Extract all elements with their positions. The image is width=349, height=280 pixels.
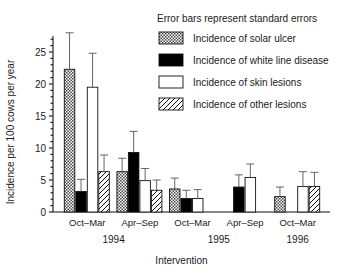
bar-rect-stippled [117, 172, 128, 212]
bar-rect-stippled [64, 69, 75, 212]
bar-rect-hatched [309, 186, 320, 212]
error-bar [194, 190, 202, 199]
bar [170, 178, 181, 212]
bar-rect-white [87, 87, 98, 212]
bar [193, 190, 204, 212]
error-bar [77, 179, 85, 191]
error-bar [100, 155, 108, 172]
y-tick-label: 20 [35, 79, 47, 90]
bar [309, 172, 320, 212]
bar [140, 168, 151, 212]
x-group-label: Oct–Mar [69, 217, 105, 228]
bar [234, 175, 245, 212]
bar-rect-hatched [99, 172, 110, 212]
x-group-label: Apr–Sep [121, 217, 158, 228]
error-bar [235, 175, 243, 187]
bar-rect-white [193, 199, 204, 212]
bar-rect-solid-black [181, 199, 192, 212]
x-year-label: 1994 [102, 234, 125, 245]
error-bar [182, 190, 190, 198]
bar-rect-white [298, 186, 309, 212]
legend-swatch-solid-black [159, 54, 183, 66]
x-axis-title: Intervention [155, 255, 207, 266]
bar-rect-solid-black [234, 187, 245, 212]
bar-rect-white [245, 177, 256, 212]
error-bar [171, 178, 179, 189]
bar [245, 164, 256, 212]
incidence-bar-chart: 0510152025Incidence per 100 cows per yea… [0, 0, 349, 280]
legend-swatch-stippled [159, 32, 183, 44]
error-bar [246, 164, 254, 177]
bar [298, 172, 309, 212]
error-bar [141, 168, 149, 180]
legend-title: Error bars represent standard errors [157, 13, 317, 24]
bar-rect-hatched [151, 190, 162, 212]
y-tick-label: 0 [40, 207, 46, 218]
bar [275, 187, 286, 212]
legend-label: Incidence of white line disease [193, 55, 329, 66]
bar [151, 180, 162, 212]
bar-rect-stippled [275, 197, 286, 212]
error-bar [130, 131, 138, 152]
bar [87, 53, 98, 212]
bar [128, 131, 139, 212]
error-bar [276, 187, 284, 197]
bar [117, 158, 128, 212]
bar [64, 33, 75, 212]
bar [99, 155, 110, 212]
legend-label: Incidence of solar ulcer [193, 33, 297, 44]
legend-label: Incidence of other lesions [193, 99, 306, 110]
legend-label: Incidence of skin lesions [193, 77, 301, 88]
y-tick-label: 5 [40, 175, 46, 186]
bar-rect-solid-black [76, 192, 87, 212]
x-group-label: Oct–Mar [279, 217, 315, 228]
bar-rect-stippled [170, 189, 181, 212]
error-bar [310, 172, 318, 186]
bar [76, 179, 87, 212]
chart-figure: 0510152025Incidence per 100 cows per yea… [0, 0, 349, 280]
bar [181, 190, 192, 212]
error-bar [118, 158, 126, 171]
bar-rect-solid-black [128, 152, 139, 212]
y-tick-label: 10 [35, 143, 47, 154]
y-tick-label: 25 [35, 47, 47, 58]
legend-swatch-white [159, 76, 183, 88]
y-axis-title: Incidence per 100 cows per year [5, 59, 16, 204]
legend-swatch-hatched [159, 98, 183, 110]
x-group-label: Oct–Mar [174, 217, 210, 228]
x-year-label: 1996 [287, 234, 310, 245]
x-group-label: Apr–Sep [227, 217, 264, 228]
bar-rect-white [140, 181, 151, 212]
y-tick-label: 15 [35, 111, 47, 122]
error-bar [89, 53, 97, 87]
x-year-label: 1995 [208, 234, 231, 245]
error-bar [299, 172, 307, 187]
error-bar [66, 33, 74, 69]
error-bar [153, 180, 161, 190]
